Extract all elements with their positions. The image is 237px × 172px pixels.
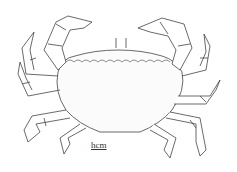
carapace bbox=[57, 50, 183, 132]
crab-illustration bbox=[0, 0, 237, 172]
left-leg-2 bbox=[18, 62, 60, 96]
right-leg-4 bbox=[150, 124, 176, 158]
scale-label: hcm bbox=[91, 140, 107, 150]
left-leg-4 bbox=[60, 124, 86, 154]
